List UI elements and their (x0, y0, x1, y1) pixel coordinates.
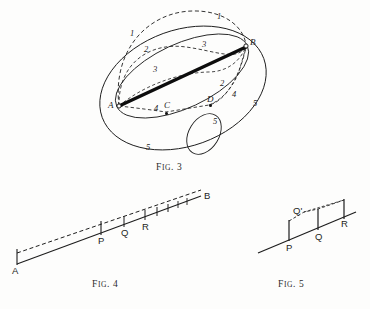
fig3-group (82, 4, 283, 172)
fig5-caption-smallcaps: IG (284, 280, 293, 289)
fig3-label-b: B (250, 38, 256, 47)
fig4-group (17, 190, 201, 265)
fig3-arc-label-3a: 3 (202, 40, 206, 49)
fig3-label-d: D (207, 95, 214, 104)
fig4-label-r: R (142, 222, 149, 232)
fig3-arc-label-1a: 1 (217, 12, 221, 21)
figure-plate: A B C D 1 1 2 3 3 2 4 4 5 5 5 FIG. 3 A B… (0, 0, 370, 309)
fig3-caption: FIG. 3 (156, 162, 182, 172)
fig4-label-q: Q (121, 228, 128, 238)
fig3-chord-ab (119, 47, 246, 106)
fig3-arc-label-3b: 3 (153, 65, 157, 74)
fig3-arc-label-5c: 5 (146, 143, 150, 152)
fig3-arc-label-2b: 2 (220, 79, 224, 88)
fig4-caption-smallcaps: IG (98, 280, 107, 289)
fig4-solid-line (17, 196, 201, 264)
fig3-arc-label-2a: 2 (144, 45, 148, 54)
fig3-arc-label-1b: 1 (130, 29, 134, 38)
fig3-caption-tail: . 3 (171, 162, 182, 172)
fig4-caption: FIG. 4 (92, 279, 118, 289)
fig5-caption-tail: . 5 (293, 279, 304, 289)
fig4-caption-tail: . 4 (107, 279, 118, 289)
fig3-dot-d (209, 104, 212, 107)
fig3-label-c: C (164, 101, 170, 110)
fig4-label-a: A (12, 266, 18, 276)
fig3-dot-c (165, 112, 168, 115)
fig4-label-p: P (98, 236, 104, 246)
fig4-label-b: B (204, 191, 210, 201)
figure-plate-canvas (0, 0, 370, 309)
fig5-caption: FIG. 5 (278, 279, 304, 289)
fig4-dashed-line (17, 190, 201, 253)
fig3-arc-label-4a: 4 (232, 90, 236, 99)
fig3-outer-oval (82, 4, 283, 172)
fig3-arc-label-5a: 5 (253, 99, 257, 108)
fig5-label-q-prime: Q' (293, 206, 302, 216)
fig3-label-a: A (108, 101, 114, 110)
fig3-point-a-marker (117, 104, 121, 108)
fig3-point-b-marker (244, 44, 248, 48)
fig3-arc-label-5b: 5 (213, 117, 217, 126)
fig3-caption-smallcaps: IG (162, 163, 171, 172)
fig5-label-r: R (341, 219, 348, 229)
fig3-arc-label-4b: 4 (154, 104, 158, 113)
fig5-label-q: Q (315, 232, 322, 242)
fig5-label-p: P (286, 243, 292, 253)
